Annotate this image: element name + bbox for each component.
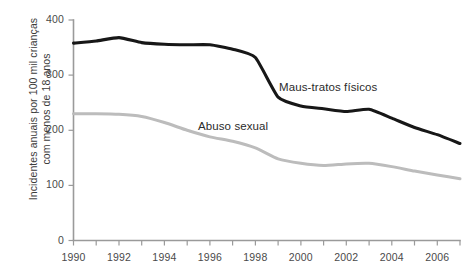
x-axis-tick-label: 2000 <box>276 251 326 263</box>
y-axis-tick-label: 100 <box>20 178 64 190</box>
x-axis-tick-label: 1994 <box>139 251 189 263</box>
y-axis-tick-label: 0 <box>20 234 64 246</box>
y-axis-tick-label: 200 <box>20 123 64 135</box>
x-axis-tick-label: 1996 <box>185 251 235 263</box>
x-axis-tick-label: 1998 <box>230 251 280 263</box>
series-annotation-maus-tratos-fisicos: Maus-tratos físicos <box>279 81 377 93</box>
chart-series-group <box>74 38 461 179</box>
y-axis-tick-label: 300 <box>20 68 64 80</box>
chart-axes <box>69 20 461 246</box>
chart-plot-area <box>0 0 472 279</box>
x-axis-tick-label: 1992 <box>94 251 144 263</box>
y-axis-tick-label: 400 <box>20 13 64 25</box>
x-axis-tick-label: 1990 <box>49 251 99 263</box>
x-axis-tick-label: 2002 <box>321 251 371 263</box>
chart-container: Incidentes anuais por 100 mil crianças c… <box>0 0 472 279</box>
x-axis-tick-label: 2004 <box>367 251 417 263</box>
series-annotation-abuso-sexual: Abuso sexual <box>198 120 268 132</box>
x-axis-tick-label: 2006 <box>412 251 462 263</box>
